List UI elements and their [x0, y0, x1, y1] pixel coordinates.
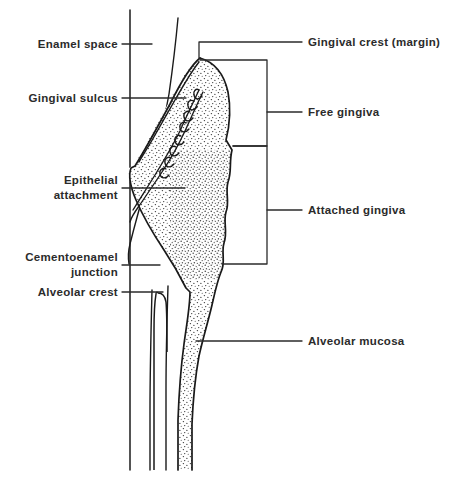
gingival-anatomy-figure: Enamel space Gingival sulcus Epithelial …: [0, 0, 454, 488]
label-alveolar-mucosa: Alveolar mucosa: [308, 334, 405, 349]
label-gingival-sulcus: Gingival sulcus: [0, 91, 118, 106]
label-gingival-crest-margin: Gingival crest (margin): [308, 35, 440, 50]
root-outline-lines: [150, 286, 168, 470]
label-attached-gingiva: Attached gingiva: [308, 203, 405, 218]
label-epithelial-attachment: Epithelial attachment: [0, 173, 118, 203]
label-alveolar-crest: Alveolar crest: [0, 285, 118, 300]
leader-gingival-crest: [199, 42, 302, 58]
alveolar-crest-bone: [154, 292, 167, 470]
anatomy-illustration: [0, 0, 454, 488]
label-enamel-space: Enamel space: [0, 37, 118, 52]
label-free-gingiva: Free gingiva: [308, 105, 379, 120]
label-cementoenamel-junction: Cementoenamel junction: [0, 250, 118, 280]
bracket-attached-gingiva: [222, 146, 302, 264]
